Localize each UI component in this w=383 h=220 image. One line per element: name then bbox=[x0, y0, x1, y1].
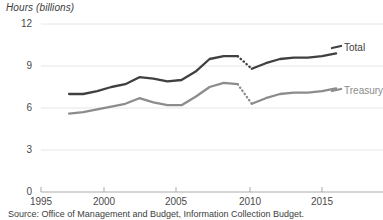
chart-plot-area bbox=[0, 0, 383, 220]
x-tick-2000: 2000 bbox=[82, 196, 126, 207]
series-line-treasury-seg1 bbox=[252, 88, 336, 103]
series-break-total bbox=[238, 56, 252, 69]
legend-swatch-total bbox=[332, 46, 341, 48]
x-axis-line bbox=[41, 187, 383, 192]
x-tick-2015: 2015 bbox=[300, 196, 344, 207]
series-break-treasury bbox=[238, 84, 252, 104]
x-tick-1995: 1995 bbox=[19, 196, 63, 207]
legend-label-treasury: Treasury bbox=[344, 85, 383, 96]
x-tick-2010: 2010 bbox=[228, 196, 272, 207]
source-note: Source: Office of Management and Budget,… bbox=[8, 209, 304, 219]
series-line-treasury-seg0 bbox=[69, 83, 238, 114]
chart-container: Hours (billions) 12 9 6 3 0 1995 2000 20… bbox=[0, 0, 383, 220]
y-tick-9: 9 bbox=[10, 60, 32, 71]
data-series-layer bbox=[69, 46, 341, 114]
y-tick-6: 6 bbox=[10, 102, 32, 113]
x-tick-2005: 2005 bbox=[154, 196, 198, 207]
y-tick-12: 12 bbox=[10, 18, 32, 29]
y-tick-3: 3 bbox=[10, 144, 32, 155]
legend-label-total: Total bbox=[344, 42, 365, 53]
series-line-total-seg0 bbox=[69, 56, 238, 94]
